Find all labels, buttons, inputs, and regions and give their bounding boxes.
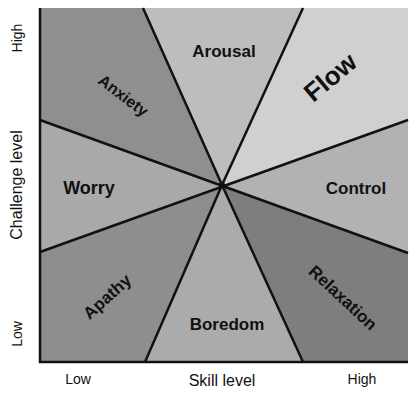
y-axis-title: Challenge level	[8, 130, 25, 239]
flow-diagram: Arousal Flow Control Relaxation Boredom …	[0, 0, 416, 393]
x-axis-high: High	[348, 371, 377, 387]
label-arousal: Arousal	[192, 42, 255, 61]
y-axis-low: Low	[9, 320, 25, 347]
label-boredom: Boredom	[190, 315, 265, 334]
y-axis-high: High	[9, 24, 25, 53]
x-axis-low: Low	[65, 371, 92, 387]
x-axis-title: Skill level	[189, 372, 256, 389]
label-worry: Worry	[63, 178, 115, 198]
label-control: Control	[326, 179, 386, 198]
